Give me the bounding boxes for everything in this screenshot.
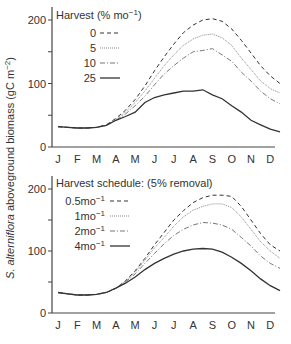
x-tick-label: A <box>189 319 197 331</box>
x-tick-label: J <box>152 319 158 331</box>
y-tick-label: 100 <box>28 245 46 257</box>
bottom-panel-harvest-schedule: 0100200JFMAMJJASOND Harvest schedule: (5… <box>28 176 280 331</box>
x-tick-label: J <box>55 319 61 331</box>
legend-label: 1mo−1 <box>74 209 105 222</box>
series-line <box>58 90 280 132</box>
chart-canvas: S. alterniflora aboveground biomass (gC … <box>0 0 291 344</box>
x-tick-label: J <box>152 153 158 165</box>
x-tick-label: A <box>112 153 120 165</box>
y-tick-label: 200 <box>28 14 46 26</box>
y-tick-label: 0 <box>40 307 46 319</box>
x-tick-label: M <box>131 153 140 165</box>
top-panel-harvest-rate: 0100200JFMAMJJASOND Harvest (% mo−1) 051… <box>28 7 280 165</box>
x-tick-label: F <box>74 153 81 165</box>
x-tick-label: M <box>92 153 101 165</box>
x-tick-label: J <box>55 153 61 165</box>
x-tick-label: D <box>266 153 274 165</box>
x-tick-label: F <box>74 319 81 331</box>
x-tick-label: J <box>171 319 177 331</box>
bottom-legend-title: Harvest schedule: (5% removal) <box>56 177 213 189</box>
bottom-legend: Harvest schedule: (5% removal) 0.5mo−11m… <box>56 177 213 252</box>
x-tick-label: M <box>92 319 101 331</box>
y-tick-label: 0 <box>40 141 46 153</box>
y-tick-label: 100 <box>28 78 46 90</box>
legend-label: 0 <box>90 27 96 39</box>
x-tick-label: M <box>131 319 140 331</box>
x-tick-label: J <box>171 153 177 165</box>
top-legend-title: Harvest (% mo−1) <box>56 8 142 21</box>
x-tick-label: N <box>247 319 255 331</box>
legend-label: 10 <box>84 57 96 69</box>
x-tick-label: D <box>266 319 274 331</box>
legend-label: 5 <box>90 42 96 54</box>
y-tick-label: 200 <box>28 183 46 195</box>
legend-label: 0.5mo−1 <box>65 194 105 207</box>
legend-label: 2mo−1 <box>74 224 105 237</box>
legend-label: 4mo−1 <box>74 239 105 252</box>
x-tick-label: O <box>227 153 236 165</box>
series-line <box>58 249 280 296</box>
y-axis-label: S. alterniflora aboveground biomass (gC … <box>3 57 16 279</box>
x-tick-label: S <box>209 153 216 165</box>
top-legend: Harvest (% mo−1) 051025 <box>56 8 142 84</box>
top-axes: 0100200JFMAMJJASOND <box>28 7 275 165</box>
legend-label: 25 <box>84 72 96 84</box>
x-tick-label: N <box>247 153 255 165</box>
x-tick-label: A <box>112 319 120 331</box>
x-tick-label: O <box>227 319 236 331</box>
x-tick-label: A <box>189 153 197 165</box>
x-tick-label: S <box>209 319 216 331</box>
